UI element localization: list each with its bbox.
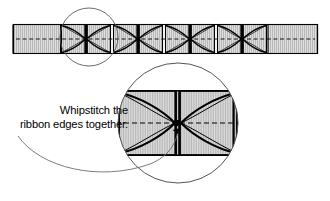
ribbon-diagram-root: Whipstitch the ribbon edges together.: [0, 0, 330, 201]
ribbon-construction-figure: Whipstitch the ribbon edges together.: [0, 0, 330, 201]
callout-line-2: ribbon edges together.: [20, 118, 128, 130]
callout-line-1: Whipstitch the: [60, 104, 128, 116]
ribbon-band-overview: [13, 24, 318, 54]
